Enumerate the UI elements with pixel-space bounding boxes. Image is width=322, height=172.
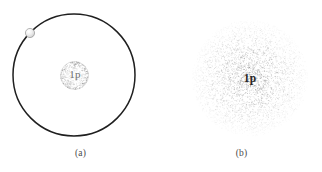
panel-a-bohr-model: 1p (a) [0,0,161,172]
nucleus-label-panel-a: 1p [62,68,88,80]
figure-root: 1p (a) 1p (b) [0,0,322,172]
electron-highlight [27,30,30,33]
caption-panel-b: (b) [161,147,322,159]
nucleus-label-panel-b: 1p [237,72,263,84]
electron-sphere [25,28,34,37]
panel-b-electron-cloud: 1p (b) [161,0,322,172]
caption-panel-a: (a) [0,147,161,159]
electron-body [25,28,34,37]
